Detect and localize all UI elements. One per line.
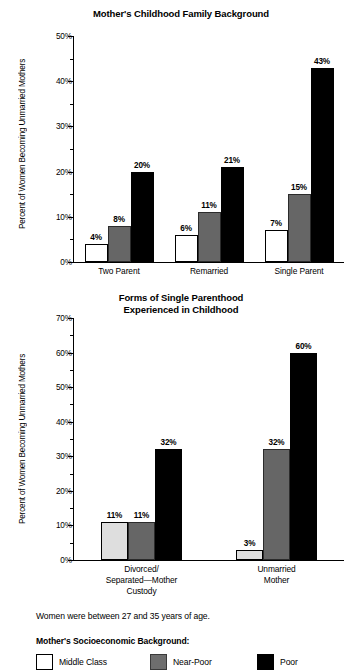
chart1-plot-area: 4%8%20%6%11%21%7%15%43% — [74, 36, 344, 262]
legend-item-middle-class[interactable]: Middle Class — [36, 654, 107, 670]
y-tick-minor — [70, 439, 73, 440]
y-tick-major — [68, 422, 73, 423]
category-label: Remarried — [190, 266, 228, 277]
legend-label-middle-class: Middle Class — [59, 657, 107, 667]
chart2-title: Forms of Single Parenthood Experienced i… — [26, 292, 336, 315]
bar-value-label: 43% — [314, 57, 330, 66]
category-label-line: Divorced/ — [83, 564, 201, 575]
category-label: UnmarriedMother — [218, 564, 336, 586]
bar-middle-class — [236, 550, 263, 560]
chart1-x-axis-line — [73, 262, 344, 263]
category-label: Divorced/Separated—MotherCustody — [83, 564, 201, 597]
chart2-y-axis-label: Percent of Women Becoming Unmarried Moth… — [18, 325, 32, 553]
y-tick-minor — [70, 474, 73, 475]
y-tick-minor — [70, 508, 73, 509]
y-tick-major — [68, 36, 73, 37]
bar-middle-class — [265, 230, 288, 262]
y-tick-minor — [70, 149, 73, 150]
y-tick-minor — [70, 194, 73, 195]
legend-swatch-near-poor-icon — [150, 654, 167, 670]
y-tick-major — [68, 353, 73, 354]
bar-poor — [221, 167, 244, 262]
category-label: Single Parent — [275, 266, 324, 277]
legend-swatch-middle-class-icon — [36, 654, 53, 670]
y-tick-major — [68, 387, 73, 388]
chart1-y-tick-labels: 0%10%20%30%40%50% — [34, 34, 72, 258]
legend-swatch-poor-icon — [257, 654, 274, 670]
bar-value-label: 11% — [134, 511, 149, 520]
bar-value-label: 11% — [107, 511, 122, 520]
bar-poor — [290, 353, 317, 560]
y-tick-major — [68, 126, 73, 127]
y-tick-minor — [70, 104, 73, 105]
bar-value-label: 7% — [270, 219, 281, 228]
bar-value-label: 3% — [244, 539, 255, 548]
chart1-title: Mother's Childhood Family Background — [26, 8, 336, 20]
chart2-title-line1: Forms of Single Parenthood — [26, 292, 336, 304]
category-label: Two Parent — [98, 266, 139, 277]
bar-value-label: 32% — [269, 438, 285, 447]
y-tick-minor — [70, 543, 73, 544]
chart2-x-axis-line — [73, 560, 344, 561]
legend-title: Mother's Socioeconomic Background: — [36, 636, 189, 646]
bar-value-label: 32% — [161, 438, 177, 447]
bar-middle-class — [175, 235, 198, 262]
y-tick-minor — [70, 59, 73, 60]
legend-item-near-poor[interactable]: Near-Poor — [150, 654, 212, 670]
y-tick-major — [68, 456, 73, 457]
y-tick-major — [68, 81, 73, 82]
bar-poor — [155, 449, 182, 560]
legend-label-near-poor: Near-Poor — [173, 657, 212, 667]
footnote: Women were between 27 and 35 years of ag… — [36, 611, 210, 621]
bar-value-label: 6% — [180, 224, 191, 233]
y-tick-major — [68, 172, 73, 173]
bar-value-label: 4% — [90, 233, 101, 242]
y-tick-major — [68, 560, 73, 561]
bar-middle-class — [101, 522, 128, 560]
bar-value-label: 60% — [296, 342, 312, 351]
y-tick-major — [68, 491, 73, 492]
y-tick-major — [68, 318, 73, 319]
chart1-y-axis-label: Percent of Women Becoming Unmarried Moth… — [18, 38, 32, 250]
category-label-line: Custody — [83, 586, 201, 597]
y-tick-major — [68, 217, 73, 218]
y-tick-minor — [70, 239, 73, 240]
y-tick-minor — [70, 370, 73, 371]
bar-value-label: 11% — [201, 201, 216, 210]
bar-near-poor — [198, 212, 221, 262]
chart2-title-line2: Experienced in Childhood — [26, 304, 336, 316]
chart2-plot-area: 11%11%32%3%32%60% — [74, 318, 344, 560]
bar-value-label: 21% — [224, 156, 240, 165]
bar-middle-class — [85, 244, 108, 262]
y-tick-minor — [70, 404, 73, 405]
y-tick-major — [68, 262, 73, 263]
chart2-y-tick-labels: 0%10%20%30%40%50%60%70% — [34, 316, 72, 560]
category-label-line: Separated—Mother — [83, 575, 201, 586]
bar-value-label: 8% — [113, 215, 124, 224]
legend-label-poor: Poor — [280, 657, 298, 667]
bar-poor — [311, 68, 334, 262]
bar-poor — [131, 172, 154, 262]
y-tick-major — [68, 525, 73, 526]
legend-item-poor[interactable]: Poor — [257, 654, 298, 670]
category-label-line: Mother — [218, 575, 336, 586]
bar-near-poor — [288, 194, 311, 262]
bar-value-label: 15% — [291, 183, 307, 192]
bar-value-label: 20% — [134, 161, 150, 170]
bar-near-poor — [108, 226, 131, 262]
bar-near-poor — [263, 449, 290, 560]
bar-near-poor — [128, 522, 155, 560]
category-label-line: Unmarried — [218, 564, 336, 575]
y-tick-minor — [70, 335, 73, 336]
